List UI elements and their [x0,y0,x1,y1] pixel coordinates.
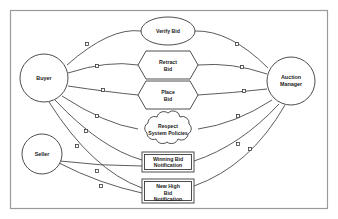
edge-marker [237,143,240,146]
edge-marker [96,65,99,68]
actor-seller-label: Seller [35,151,51,157]
diagram-canvas: Buyer Seller Auction Manager Verify Bid … [0,0,338,219]
edge-manager-respect-policies[interactable] [198,100,272,129]
edge-buyer-verify-bid[interactable] [67,31,141,65]
edge-marker [243,90,246,93]
edge-marker [76,145,79,148]
edge-marker [85,130,88,133]
usecase-new-high-bid-label-line3: Notification [154,196,183,202]
edge-manager-place-bid[interactable] [198,89,267,95]
edge-marker [102,89,105,92]
usecase-winning-bid-label-line1: Winning Bid [153,156,183,162]
actor-seller[interactable]: Seller [22,134,62,174]
edge-buyer-respect-policies[interactable] [62,96,138,129]
usecase-new-high-bid-notification[interactable]: New High Bid Notification [142,179,194,203]
edge-marker [100,185,103,188]
usecase-retract-bid-hexagon[interactable] [138,51,198,79]
usecase-place-bid-hexagon[interactable] [138,81,198,109]
actor-buyer-label: Buyer [36,75,52,81]
edge-manager-retract-bid[interactable] [198,64,267,74]
edge-marker [96,115,99,118]
usecase-retract-bid-label-line2: Bid [164,66,172,72]
usecase-new-high-bid-label-line1: New High [156,183,180,189]
edge-manager-verify-bid[interactable] [195,31,268,68]
edge-marker [86,43,89,46]
edge-marker [96,170,99,173]
usecase-verify-bid[interactable]: Verify Bid [141,17,195,45]
usecase-respect-system-policies[interactable]: Respect System Policies [145,111,191,144]
usecase-winning-bid-notification[interactable]: Winning Bid Notification [142,152,194,172]
usecase-retract-bid-label-line1: Retract [159,59,177,65]
actor-buyer[interactable]: Buyer [20,54,68,102]
usecase-place-bid-label-line2: Bid [164,96,172,102]
edge-marker [236,43,239,46]
usecase-retract-bid[interactable]: Retract Bid [138,51,198,79]
usecase-place-bid-label-line1: Place [161,89,175,95]
usecase-new-high-bid-label-line2: Bid [164,190,172,196]
usecase-verify-bid-label: Verify Bid [156,28,180,34]
use-case-diagram: Buyer Seller Auction Manager Verify Bid … [0,0,338,219]
edge-marker [241,66,244,69]
usecase-winning-bid-label-line2: Notification [154,162,183,168]
actor-auction-manager-label-line1: Auction [281,74,301,80]
edge-buyer-winning-bid[interactable] [55,100,142,160]
edge-buyer-retract-bid[interactable] [68,64,138,73]
usecase-respect-policies-label-line2: System Policies [148,130,188,136]
usecase-place-bid[interactable]: Place Bid [138,81,198,109]
edge-marker [237,115,240,118]
actor-auction-manager[interactable]: Auction Manager [267,57,315,105]
edge-marker [249,148,252,151]
edge-seller-new-high-bid[interactable] [59,163,142,193]
actor-auction-manager-label-line2: Manager [280,81,303,87]
usecase-respect-policies-label-line1: Respect [158,123,178,129]
